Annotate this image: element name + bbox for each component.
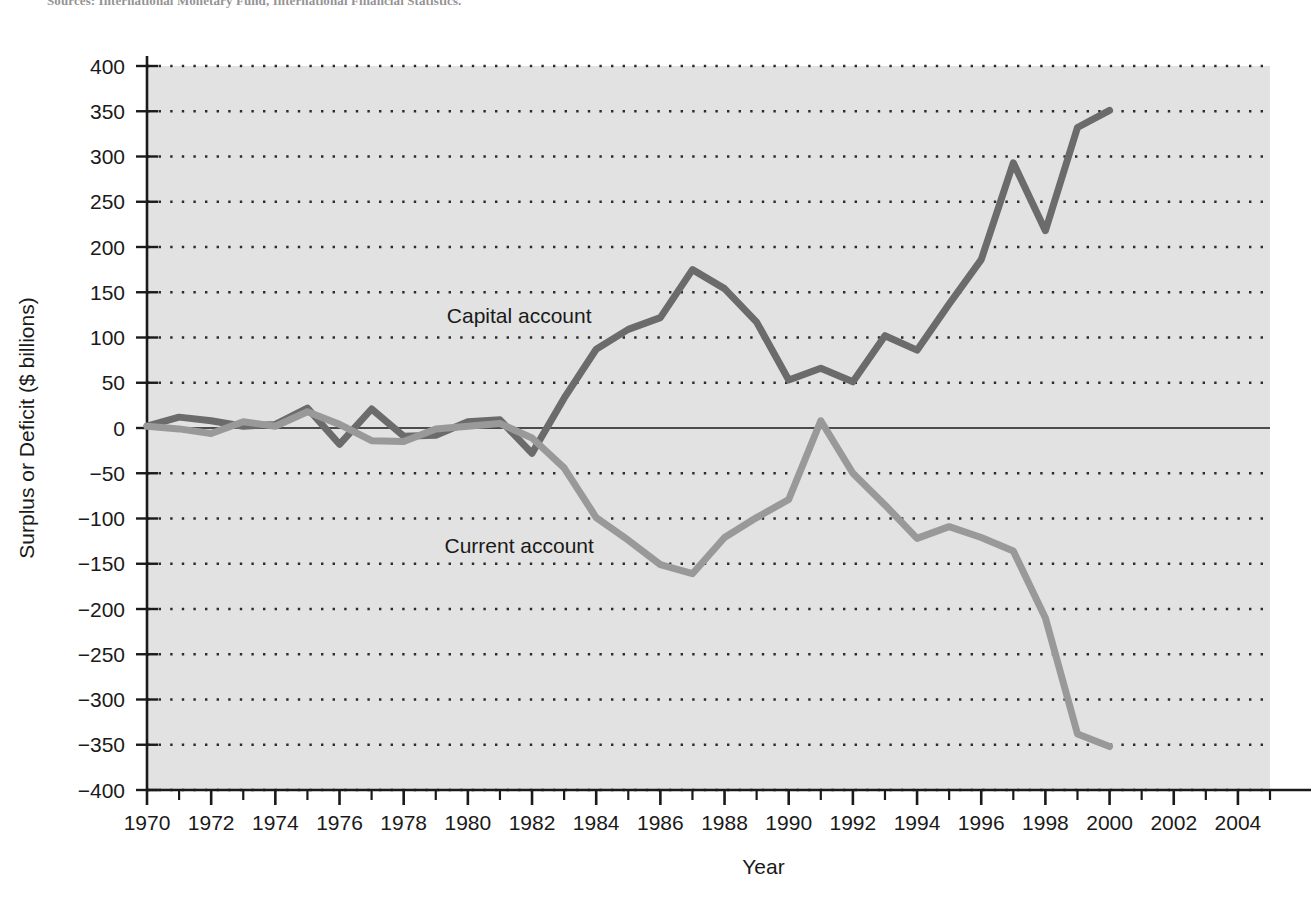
x-axis-tick-label: 2002 (1150, 811, 1197, 834)
y-axis-title: Surplus or Deficit ($ billions) (15, 297, 38, 558)
y-axis-tick-label: 50 (102, 371, 125, 394)
x-axis-tick-label: 1986 (637, 811, 684, 834)
y-axis-tick-label: −150 (78, 552, 125, 575)
x-axis-tick-label: 2004 (1215, 811, 1262, 834)
x-axis-tick-label: 1988 (701, 811, 748, 834)
y-axis-tick-label: −350 (78, 733, 125, 756)
x-axis-tick-label: 1998 (1022, 811, 1069, 834)
x-axis-tick-label: 1970 (124, 811, 171, 834)
y-axis-tick-label: 100 (90, 326, 125, 349)
y-axis-tick-label: 200 (90, 236, 125, 259)
series-annotation: Current account (444, 534, 594, 557)
x-axis-tick-label: 1976 (316, 811, 363, 834)
y-axis-tick-label: −200 (78, 598, 125, 621)
y-axis-tick-label: 250 (90, 190, 125, 213)
y-axis-tick-label: −100 (78, 507, 125, 530)
x-axis-tick-label: 1992 (830, 811, 877, 834)
y-axis-tick-label: −50 (89, 462, 125, 485)
x-axis-tick-label: 1974 (252, 811, 299, 834)
source-note: Sources: International Monetary Fund, In… (47, 0, 461, 9)
x-axis-tick-label: 1996 (958, 811, 1005, 834)
y-axis-tick-label: 150 (90, 281, 125, 304)
y-axis-tick-label: 350 (90, 100, 125, 123)
y-axis-tick-label: 0 (113, 417, 125, 440)
x-axis-tick-label: 1972 (188, 811, 235, 834)
x-axis-tick-label: 1990 (765, 811, 812, 834)
y-axis-tick-label: 300 (90, 145, 125, 168)
y-axis-tick-label: −300 (78, 688, 125, 711)
x-axis-tick-label: 1978 (380, 811, 427, 834)
x-axis-tick-label: 1980 (444, 811, 491, 834)
y-axis-tick-label: −400 (78, 779, 125, 802)
x-axis-tick-label: 1994 (894, 811, 941, 834)
y-axis-tick-label: −250 (78, 643, 125, 666)
series-annotation: Capital account (447, 304, 592, 327)
chart-figure: Sources: International Monetary Fund, In… (0, 0, 1311, 906)
x-axis-tick-label: 1984 (573, 811, 620, 834)
x-axis-title: Year (742, 855, 784, 878)
x-axis-tick-label: 2000 (1086, 811, 1133, 834)
x-axis-tick-label: 1982 (509, 811, 556, 834)
surplus-deficit-line-chart: 400350300250200150100500−50−100−150−200−… (0, 0, 1311, 906)
y-axis-tick-label: 400 (90, 55, 125, 78)
